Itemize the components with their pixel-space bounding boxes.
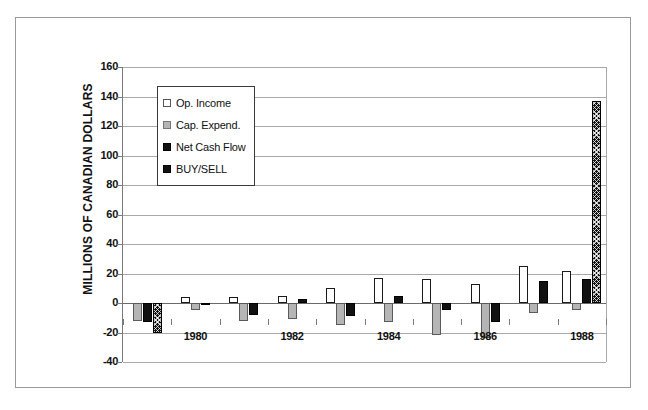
- gridline: [123, 274, 606, 275]
- y-axis-tick-label: 120: [78, 119, 118, 131]
- y-axis-tick: [116, 185, 122, 186]
- x-axis-tick: [509, 319, 510, 325]
- x-axis-tick-label: 1986: [474, 330, 497, 342]
- bar-op-1982: [278, 296, 287, 303]
- y-axis-tick-label: 160: [78, 60, 118, 72]
- legend-item-ncf: Net Cash Flow: [163, 136, 254, 158]
- bar-ncf-1982: [298, 299, 307, 303]
- gridline: [123, 215, 606, 216]
- chart-legend: Op. IncomeCap. Expend.Net Cash FlowBUY/S…: [157, 86, 255, 186]
- bar-ncf-1984: [394, 296, 403, 303]
- y-axis-tick-label: -20: [78, 326, 118, 338]
- y-axis-tick-label: 60: [78, 208, 118, 220]
- bar-op-1980: [181, 297, 190, 303]
- y-axis-tick: [116, 215, 122, 216]
- bar-ncf-1980: [201, 303, 210, 305]
- bar-op-1986: [471, 284, 480, 303]
- x-axis-tick-label: 1980: [184, 330, 207, 342]
- y-axis-tick-label: 100: [78, 149, 118, 161]
- x-axis-tick-label: 1984: [377, 330, 400, 342]
- y-axis-tick: [116, 97, 122, 98]
- bar-cap-1988: [572, 303, 581, 310]
- x-axis-tick: [316, 319, 317, 325]
- legend-swatch-ncf-icon: [163, 143, 171, 151]
- y-axis-tick: [116, 274, 122, 275]
- y-axis-tick-label: -40: [78, 355, 118, 367]
- legend-swatch-buy-icon: [163, 165, 171, 173]
- y-axis-tick: [116, 126, 122, 127]
- bar-cap-1980: [191, 303, 200, 310]
- y-axis-tick: [116, 362, 122, 363]
- bar-cap-1987: [529, 303, 538, 313]
- x-axis-tick: [413, 319, 414, 325]
- x-axis-tick: [171, 319, 172, 325]
- y-axis-tick-label: 140: [78, 90, 118, 102]
- bar-ncf-1983: [346, 303, 355, 316]
- x-axis-tick: [365, 319, 366, 325]
- legend-label: Cap. Expend.: [176, 119, 240, 131]
- bar-op-1987: [519, 266, 528, 303]
- y-axis-tick-label: 20: [78, 267, 118, 279]
- x-axis-tick: [268, 319, 269, 325]
- bar-op-1985: [422, 279, 431, 303]
- gridline: [123, 362, 606, 363]
- y-axis-tick: [116, 244, 122, 245]
- bar-op-1988: [562, 271, 571, 303]
- legend-label: Op. Income: [176, 97, 231, 109]
- bar-op-1981: [229, 297, 238, 303]
- y-axis-tick: [116, 156, 122, 157]
- bar-op-1983: [326, 288, 335, 303]
- legend-swatch-cap-icon: [163, 121, 171, 129]
- x-axis-tick-label: 1982: [280, 330, 303, 342]
- bar-ncf-1988: [582, 279, 591, 303]
- y-axis-tick-label: 80: [78, 178, 118, 190]
- y-axis-tick: [116, 67, 122, 68]
- legend-item-cap: Cap. Expend.: [163, 114, 254, 136]
- legend-label: Net Cash Flow: [176, 141, 246, 153]
- y-axis-tick: [116, 333, 122, 334]
- bar-op-1984: [374, 278, 383, 303]
- x-axis-tick: [558, 319, 559, 325]
- x-axis-tick: [220, 319, 221, 325]
- legend-item-buy: BUY/SELL: [163, 158, 254, 180]
- plot-right-border: [606, 67, 607, 362]
- gridline: [123, 244, 606, 245]
- bar-cap-1982: [288, 303, 297, 319]
- bar-ncf-1981: [249, 303, 258, 315]
- x-axis-tick-label: 1988: [570, 330, 593, 342]
- y-axis-tick: [116, 303, 122, 304]
- legend-swatch-op-icon: [163, 99, 171, 107]
- x-axis-tick: [606, 319, 607, 325]
- x-axis-tick: [123, 319, 124, 325]
- y-axis-tick-label: 0: [78, 296, 118, 308]
- y-axis-tick-label: 40: [78, 237, 118, 249]
- bar-ncf-1987: [539, 281, 548, 303]
- x-axis: 19801982198419861988: [123, 319, 606, 347]
- bar-buy-1988: [592, 101, 601, 303]
- gridline: [123, 67, 606, 68]
- legend-item-op: Op. Income: [163, 92, 254, 114]
- legend-label: BUY/SELL: [176, 163, 227, 175]
- y-axis-labels: 160140120100806040200-20-40: [74, 67, 118, 362]
- bar-ncf-1985: [442, 303, 451, 310]
- chart-frame: MILLIONS OF CANADIAN DOLLARS 16014012010…: [15, 17, 631, 388]
- x-axis-tick: [461, 319, 462, 325]
- y-axis-title-wrap: MILLIONS OF CANADIAN DOLLARS: [42, 78, 66, 318]
